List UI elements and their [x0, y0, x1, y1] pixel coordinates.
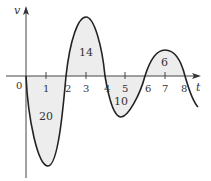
tick-label-4: 4: [104, 83, 110, 94]
area-label-4: 6: [161, 56, 168, 69]
tick-label-2: 2: [65, 83, 71, 94]
tick-label-8: 8: [181, 83, 187, 94]
x-axis-label: t: [196, 81, 201, 94]
tick-label-7: 7: [162, 83, 168, 94]
tick-label-5: 5: [122, 83, 128, 94]
area-label-1: 20: [39, 110, 53, 123]
velocity-chart: 0 1 2 3 4 5 6 7 8 t v 20 14 10 6: [0, 0, 211, 181]
tick-label-1: 1: [43, 83, 49, 94]
area-label-3: 10: [114, 95, 128, 108]
y-axis-label: v: [14, 4, 21, 17]
tick-label-3: 3: [83, 83, 89, 94]
area-label-2: 14: [79, 46, 93, 59]
tick-label-6: 6: [145, 83, 151, 94]
origin-label: 0: [16, 80, 22, 91]
